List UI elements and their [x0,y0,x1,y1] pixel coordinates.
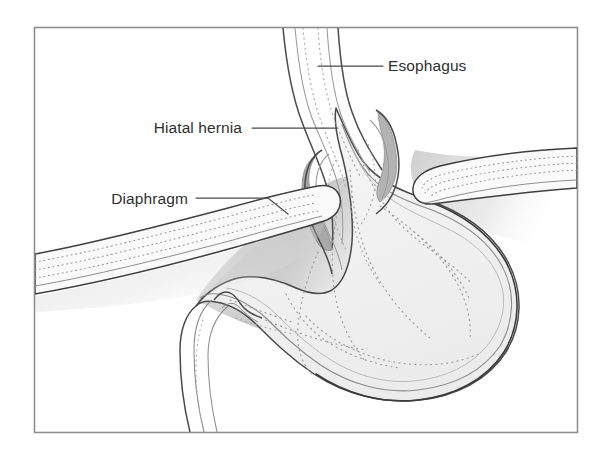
hiatal-hernia-illustration: Esophagus Hiatal hernia Diaphragm [0,0,603,459]
label-esophagus: Esophagus [388,57,467,74]
label-diaphragm: Diaphragm [111,190,188,207]
figure-root: Esophagus Hiatal hernia Diaphragm [0,0,603,459]
label-hiatal-hernia: Hiatal hernia [154,119,243,136]
